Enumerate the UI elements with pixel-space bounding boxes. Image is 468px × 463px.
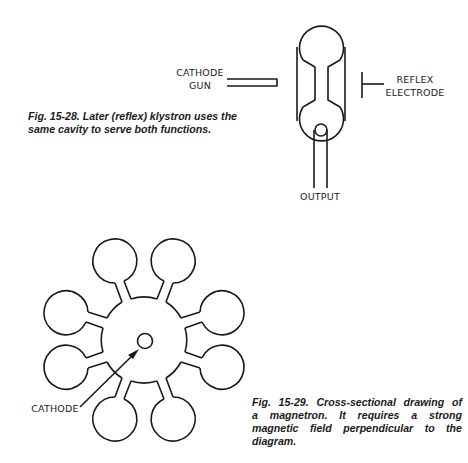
cathode-gun-label-line-2: GUN	[172, 79, 228, 92]
anode-arc-upper-right	[166, 302, 181, 318]
caption-line: Fig. 15-29. Cross-sectional drawing of	[252, 396, 462, 409]
klystron-diagram	[0, 0, 468, 463]
cathode-label: CATHODE	[28, 402, 82, 415]
output-loop	[315, 124, 327, 136]
output-label: OUTPUT	[294, 190, 346, 203]
caption-line: diagram.	[252, 435, 462, 448]
caption-line: Fig. 15-28. Later (reflex) klystron uses…	[28, 110, 250, 123]
figure-15-28-caption: Fig. 15-28. Later (reflex) klystron uses…	[28, 110, 250, 136]
figure-15-29-caption: Fig. 15-29. Cross-sectional drawing of a…	[252, 396, 462, 448]
reflex-electrode-label: REFLEX ELECTRODE	[384, 73, 446, 99]
cavity-top-left	[93, 239, 137, 283]
anode-arc-upper-left	[107, 302, 122, 318]
cathode-gun-label: CATHODE GUN	[172, 66, 228, 92]
cavity-lower-right	[200, 345, 244, 389]
anode-arc-right	[185, 328, 187, 352]
cathode-gun-label-line-1: CATHODE	[172, 66, 228, 79]
cavity-upper-right	[200, 291, 244, 335]
cavity-bottom-left	[93, 397, 137, 441]
caption-line: a magnetron. It requires a strong	[252, 409, 462, 422]
cathode-gun	[227, 79, 277, 86]
klystron-waist-right	[328, 60, 340, 107]
cavity-lower-left	[44, 345, 88, 389]
klystron-waist-left	[303, 60, 315, 107]
reflex-electrode-label-line-2: ELECTRODE	[384, 86, 446, 99]
cavity-top-right	[151, 239, 195, 283]
cathode-circle	[138, 334, 153, 349]
anode-arc-left	[101, 328, 103, 352]
klystron-top-cavity	[300, 26, 344, 60]
anode-arc-bottom	[131, 381, 157, 383]
cavity-upper-left	[44, 291, 88, 335]
caption-line: same cavity to serve both functions.	[28, 123, 250, 136]
anode-arc-top	[131, 297, 157, 299]
caption-line: magnetic field perpendicular to the	[252, 422, 462, 435]
anode-arc-lower-right	[166, 362, 181, 378]
cavity-bottom-right	[151, 397, 195, 441]
anode-arc-lower-left	[107, 362, 122, 378]
reflex-electrode-label-line-1: REFLEX	[384, 73, 446, 86]
